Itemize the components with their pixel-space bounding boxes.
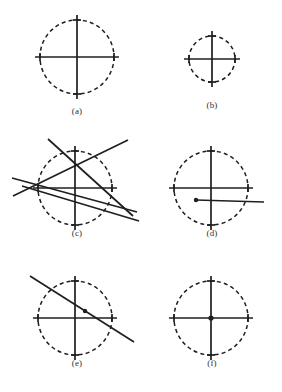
chord-line-d-0 [196, 200, 264, 202]
panel-d [169, 146, 264, 230]
panels-group [12, 15, 264, 360]
figure-root: (a)(b)(c)(d)(e)(f) [0, 0, 282, 392]
panel-label-b: (b) [192, 100, 232, 110]
panel-label-f: (f) [192, 358, 232, 368]
panel-label-d: (d) [192, 228, 232, 238]
panel-label-e: (e) [57, 358, 97, 368]
panel-label-c: (c) [57, 228, 97, 238]
point-marker-f-0 [208, 315, 213, 320]
point-marker-e-0 [83, 309, 87, 313]
chord-line-e-0 [30, 276, 134, 342]
panel-e [30, 276, 134, 360]
panel-f [169, 276, 253, 360]
panel-c [12, 139, 139, 230]
panel-b [184, 31, 240, 87]
panel-label-a: (a) [57, 106, 97, 116]
chord-line-c-0 [48, 139, 133, 216]
panel-a [35, 15, 119, 99]
chord-line-c-3 [22, 186, 139, 221]
point-marker-d-0 [194, 198, 198, 202]
figure-canvas [0, 0, 282, 392]
